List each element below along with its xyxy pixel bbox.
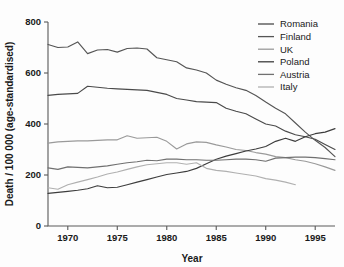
legend-label-uk: UK	[280, 44, 294, 55]
y-axis-title: Death / 100 000 (age-standardised)	[4, 42, 15, 207]
series-line-italy	[48, 163, 295, 190]
y-tick-label: 0	[36, 220, 41, 231]
x-tick-label: 1975	[107, 232, 129, 243]
legend-label-austria: Austria	[280, 69, 310, 80]
legend-label-finland: Finland	[280, 31, 311, 42]
chart-figure: 0200400600800 197019751980198519901995 D…	[0, 0, 344, 267]
x-tick-label: 1970	[57, 232, 78, 243]
y-tick-label: 600	[25, 67, 41, 78]
x-axis-title: Year	[181, 253, 202, 264]
y-tick-label: 800	[25, 16, 41, 27]
x-tick-labels: 197019751980198519901995	[57, 232, 326, 243]
series-line-uk	[48, 136, 335, 171]
y-tick-labels: 0200400600800	[25, 16, 41, 231]
x-tick-label: 1995	[305, 232, 327, 243]
chart-legend: RomaniaFinlandUKPolandAustriaItaly	[258, 18, 319, 92]
legend-label-italy: Italy	[280, 81, 298, 92]
line-chart: 0200400600800 197019751980198519901995 D…	[0, 0, 344, 267]
x-tick-label: 1980	[156, 232, 177, 243]
x-tick-label: 1990	[255, 232, 276, 243]
legend-label-romania: Romania	[280, 18, 319, 29]
y-tick-label: 200	[25, 169, 41, 180]
y-tick-label: 400	[25, 118, 41, 129]
legend-label-poland: Poland	[280, 56, 310, 67]
x-tick-label: 1985	[206, 232, 228, 243]
